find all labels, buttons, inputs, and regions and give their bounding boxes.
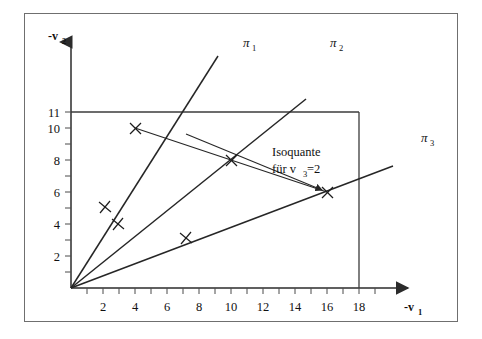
- ray-pi2: [71, 99, 306, 288]
- y-axis-title: -v 2: [48, 29, 66, 46]
- ray-pi3: [71, 166, 393, 288]
- isoquant-annotation-line2-rest: =2: [307, 162, 320, 176]
- ray-pi1: [71, 56, 218, 288]
- isoquant-annotation: Isoquante für v 3 =2: [272, 145, 321, 179]
- isoquant-vertex-markers: [130, 123, 333, 198]
- x-axis-title-subscript: 1: [418, 307, 422, 317]
- y-tick-label: 11: [48, 106, 60, 120]
- x-tick-label: 14: [289, 300, 302, 314]
- y-tick-label: 6: [54, 186, 60, 200]
- x-tick-label: 2: [100, 300, 106, 314]
- chart-canvas: 11 10 8 6 4 2 2 4 6 8 10 12 14 16 18 -v …: [0, 0, 482, 339]
- y-tick-labels: 11 10 8 6 4 2: [48, 106, 61, 264]
- ray-label-pi3-base: π: [421, 130, 428, 145]
- marker-isoquant-4-10: [130, 123, 141, 134]
- x-tick-label: 10: [225, 300, 238, 314]
- ray-label-pi1: π 1: [243, 35, 256, 53]
- marker-pi1-ray: [99, 201, 111, 213]
- x-tick-label: 12: [257, 300, 270, 314]
- x-tick-label: 8: [196, 300, 202, 314]
- ray-label-pi3: π 3: [421, 130, 434, 148]
- y-tick-label: 4: [54, 218, 61, 232]
- ray-label-pi2-subscript: 2: [339, 43, 343, 53]
- x-axis-title: -v 1: [404, 300, 422, 317]
- y-tick-label: 10: [48, 122, 61, 136]
- x-axis-title-base: -v: [404, 300, 414, 314]
- x-tick-label: 6: [164, 300, 170, 314]
- isoquant-annotation-line1: Isoquante: [272, 145, 321, 159]
- isoquant-leader-line: [186, 134, 322, 190]
- marker-isoquant-10-8: [226, 155, 237, 166]
- ray-label-pi1-base: π: [243, 35, 250, 50]
- ray-label-pi2: π 2: [330, 35, 343, 53]
- x-tick-label: 16: [321, 300, 334, 314]
- y-tick-label: 2: [54, 250, 60, 264]
- isoquant-annotation-line2-base: für v: [272, 162, 297, 176]
- x-tick-labels: 2 4 6 8 10 12 14 16 18: [100, 300, 365, 314]
- y-tick-marks: [65, 112, 71, 272]
- y-tick-label: 8: [54, 154, 60, 168]
- y-axis-title-subscript: 2: [62, 36, 66, 46]
- marker-pi3-ray: [180, 232, 192, 244]
- ray-label-pi1-subscript: 1: [252, 43, 256, 53]
- ray-label-pi3-subscript: 3: [430, 138, 434, 148]
- x-tick-label: 4: [132, 300, 139, 314]
- marker-pi2-ray: [112, 218, 124, 230]
- axes-group: [71, 42, 408, 288]
- y-axis-title-base: -v: [48, 29, 58, 43]
- ray-label-pi2-base: π: [330, 35, 337, 50]
- x-tick-marks: [87, 288, 375, 294]
- figure-root: 11 10 8 6 4 2 2 4 6 8 10 12 14 16 18 -v …: [0, 0, 482, 339]
- x-tick-label: 18: [353, 300, 366, 314]
- feasible-boundary-lines: [71, 112, 359, 288]
